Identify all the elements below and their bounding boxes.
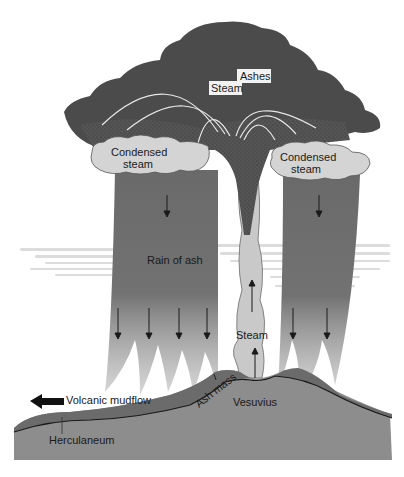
- label-steam-column: Steam: [236, 329, 268, 341]
- rain-of-ash-left: [105, 170, 218, 395]
- label-rain-of-ash: Rain of ash: [147, 254, 203, 266]
- label-condensed-steam-left-1: Condensed: [111, 146, 167, 158]
- mudflow-arrow-icon: [30, 394, 64, 409]
- label-ashes: Ashes: [240, 70, 271, 82]
- label-condensed-steam-right-1: Condensed: [280, 151, 336, 163]
- label-volcanic-mudflow: Volcanic mudflow: [66, 394, 151, 406]
- label-herculaneum: Herculaneum: [49, 434, 114, 446]
- label-steam-top: Steam: [211, 82, 243, 94]
- label-vesuvius: Vesuvius: [233, 396, 278, 408]
- label-condensed-steam-right-2: steam: [291, 163, 321, 175]
- vesuvius-eruption-diagram: Ashes Steam Condensed steam Condensed st…: [0, 0, 404, 477]
- label-condensed-steam-left-2: steam: [123, 158, 153, 170]
